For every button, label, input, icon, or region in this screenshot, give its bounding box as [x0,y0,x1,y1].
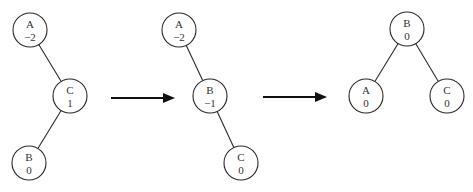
node-balance-factor: 0 [363,97,369,109]
tree-after-right-rotation: A−2B−1C0 [162,13,258,180]
node-label: B [25,151,32,163]
tree-node-c: C0 [430,79,464,113]
tree-node-b: B−1 [193,79,227,113]
tree-node-b: B0 [12,146,46,180]
tree-node-a: A−2 [13,13,47,47]
node-balance-factor: 1 [67,97,73,109]
node-balance-factor: −2 [173,31,185,43]
node-label: B [206,84,213,96]
tree-node-a: A−2 [162,13,196,47]
node-balance-factor: 0 [444,97,450,109]
node-label: C [237,151,244,163]
node-balance-factor: 0 [404,30,410,42]
tree-initial: A−2C1B0 [12,13,87,180]
tree-balanced: B0A0C0 [349,12,464,113]
edges-layer [29,29,447,163]
node-balance-factor: −1 [204,97,216,109]
node-label: C [443,84,450,96]
node-balance-factor: 0 [238,164,244,176]
node-label: C [66,84,73,96]
tree-node-c: C0 [224,146,258,180]
nodes-layer: A−2C1B0A−2B−1C0B0A0C0 [12,12,464,180]
transition-arrow-icon [111,93,175,103]
transition-arrow-icon [263,92,327,102]
node-balance-factor: −2 [24,31,36,43]
node-label: B [403,17,410,29]
node-label: A [175,18,183,30]
tree-node-b: B0 [390,12,424,46]
tree-node-c: C1 [53,79,87,113]
avl-rotation-diagram: A−2C1B0A−2B−1C0B0A0C0 [0,0,473,192]
tree-node-a: A0 [349,79,383,113]
node-balance-factor: 0 [26,164,32,176]
node-label: A [26,18,34,30]
node-label: A [362,84,370,96]
